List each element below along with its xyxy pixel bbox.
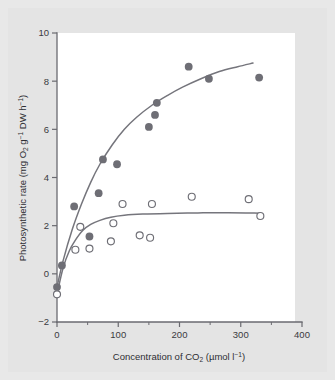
x-axis-ticks xyxy=(57,322,302,327)
y-tick-label: 10 xyxy=(38,27,49,38)
y-tick-label: 0 xyxy=(44,268,49,279)
data-point-open-circles xyxy=(107,238,114,245)
data-point-filled-circles xyxy=(185,63,193,71)
y-tick-label: 4 xyxy=(44,172,49,183)
data-point-open-circles xyxy=(148,200,155,207)
data-point-open-circles xyxy=(136,232,143,239)
x-tick-label: 0 xyxy=(54,329,59,340)
data-point-filled-circles xyxy=(113,160,121,168)
data-point-open-circles xyxy=(110,220,117,227)
x-tick-label: 400 xyxy=(294,329,310,340)
data-point-filled-circles xyxy=(151,111,159,119)
data-point-filled-circles xyxy=(153,99,161,107)
data-point-filled-circles xyxy=(86,233,94,241)
x-axis-title: Concentration of CO2 (µmol l−1) xyxy=(113,351,245,364)
y-tick-label: −2 xyxy=(38,316,49,327)
x-tick-label: 300 xyxy=(233,329,249,340)
data-point-filled-circles xyxy=(255,74,263,82)
data-point-filled-circles xyxy=(205,75,213,83)
data-point-open-circles xyxy=(147,234,154,241)
data-point-open-circles xyxy=(77,223,84,230)
data-point-open-circles xyxy=(86,245,93,252)
data-point-filled-circles xyxy=(95,189,103,197)
data-point-open-circles xyxy=(119,200,126,207)
data-point-open-circles xyxy=(188,193,195,200)
scatter-plot: −20246810 0100200300400 Concentration of… xyxy=(8,8,327,372)
x-tick-label: 200 xyxy=(172,329,188,340)
data-point-open-circles xyxy=(245,196,252,203)
data-point-filled-circles xyxy=(58,262,66,270)
y-axis-ticks xyxy=(52,33,57,322)
data-point-open-circles xyxy=(257,213,264,220)
data-point-open-circles xyxy=(54,291,61,298)
data-point-filled-circles xyxy=(99,156,107,164)
y-axis-tick-labels: −20246810 xyxy=(38,27,49,327)
data-point-open-circles xyxy=(72,246,79,253)
y-tick-label: 6 xyxy=(44,124,49,135)
figure-panel: −20246810 0100200300400 Concentration of… xyxy=(8,8,327,372)
x-axis-tick-labels: 0100200300400 xyxy=(54,329,310,340)
data-point-filled-circles xyxy=(53,283,61,291)
data-point-filled-circles xyxy=(145,123,153,131)
y-tick-label: 2 xyxy=(44,220,49,231)
y-axis-title: Photosynthetic rate (mg O2 g−1 DW h−1) xyxy=(17,95,30,262)
data-point-filled-circles xyxy=(70,203,78,211)
x-tick-label: 100 xyxy=(110,329,126,340)
y-tick-label: 8 xyxy=(44,76,49,87)
figure-root: −20246810 0100200300400 Concentration of… xyxy=(0,0,335,380)
